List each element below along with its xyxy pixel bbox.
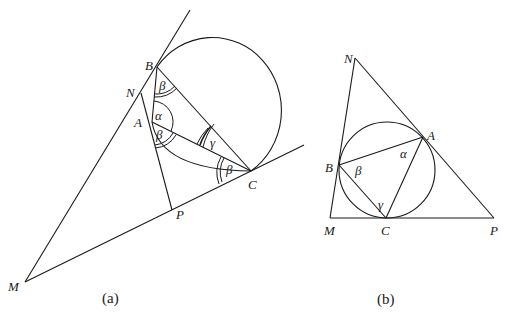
label-point-c-b: C bbox=[381, 223, 390, 238]
label-point-c: C bbox=[248, 177, 257, 192]
label-angle-alpha-b: α bbox=[400, 146, 408, 161]
incircle-b bbox=[339, 122, 435, 218]
label-point-b: B bbox=[145, 58, 153, 73]
circle-a bbox=[157, 37, 281, 171]
label-point-b-b: B bbox=[325, 160, 333, 175]
angle-beta-c-arc1 bbox=[220, 158, 224, 182]
label-point-p: P bbox=[175, 207, 184, 222]
figure-a: B N A C P M β α β γ β (a) bbox=[7, 10, 304, 307]
side-np bbox=[355, 58, 494, 218]
label-angle-beta-b: β bbox=[354, 163, 362, 178]
geometry-figures: B N A C P M β α β γ β (a) N A B M C P α … bbox=[0, 0, 508, 321]
label-point-n: N bbox=[125, 85, 136, 100]
label-angle-beta-c: β bbox=[225, 162, 233, 177]
figure-b: N A B M C P α β γ (b) bbox=[323, 51, 498, 308]
label-angle-gamma-b: γ bbox=[378, 197, 384, 212]
caption-b: (b) bbox=[377, 291, 395, 308]
segment-ac bbox=[152, 122, 251, 171]
label-point-m-b: M bbox=[323, 223, 336, 238]
label-point-p-b: P bbox=[489, 223, 498, 238]
label-angle-beta-b: β bbox=[158, 78, 166, 93]
label-angle-alpha-a: α bbox=[155, 108, 163, 123]
label-point-a-b: A bbox=[426, 128, 435, 143]
segment-ba-b bbox=[339, 137, 423, 165]
label-point-m: M bbox=[7, 279, 20, 294]
label-point-n-b: N bbox=[343, 51, 354, 66]
label-point-a: A bbox=[133, 115, 142, 130]
segment-bc bbox=[157, 67, 251, 171]
label-angle-gamma-c: γ bbox=[210, 135, 216, 150]
caption-a: (a) bbox=[102, 290, 119, 307]
label-angle-beta-a: β bbox=[155, 127, 163, 142]
